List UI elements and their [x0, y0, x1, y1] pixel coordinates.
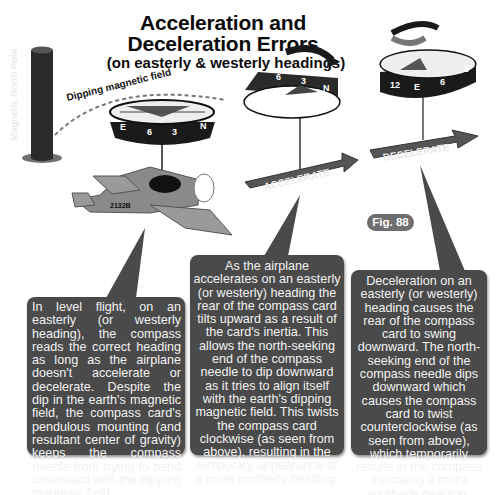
figure-badge: Fig. 88 — [367, 214, 414, 231]
svg-text:12: 12 — [390, 80, 400, 90]
callout-level-flight: In level flight, on an easterly (or west… — [27, 297, 185, 455]
pole-label: Magnetic North Pole — [8, 40, 19, 150]
callout-tail-level — [106, 228, 145, 298]
svg-text:E: E — [120, 122, 126, 132]
svg-text:3: 3 — [172, 127, 177, 137]
callout-acceleration: As the airplane accelerates on an easter… — [190, 255, 344, 455]
decelerate-compass-icon: 12 E 6 3 DECELERATE — [370, 24, 478, 163]
accelerate-compass-icon: 6 3 N ACCELERATE — [244, 48, 358, 192]
svg-text:3: 3 — [301, 76, 306, 86]
callout-tail-accelerate — [264, 195, 300, 256]
svg-text:E: E — [414, 82, 420, 92]
callout-deceleration: Deceleration on an easterly (or westerly… — [351, 270, 487, 455]
magnetic-north-pole-icon — [22, 47, 62, 164]
svg-text:N: N — [200, 121, 207, 131]
airplane-icon: 2132B — [72, 167, 232, 235]
svg-text:3: 3 — [464, 64, 469, 74]
svg-text:N: N — [323, 83, 330, 93]
svg-text:6: 6 — [147, 127, 152, 137]
svg-text:6: 6 — [440, 77, 445, 87]
svg-text:2132B: 2132B — [110, 202, 131, 209]
callout-tail-decelerate — [420, 165, 465, 271]
svg-text:6: 6 — [276, 72, 281, 82]
